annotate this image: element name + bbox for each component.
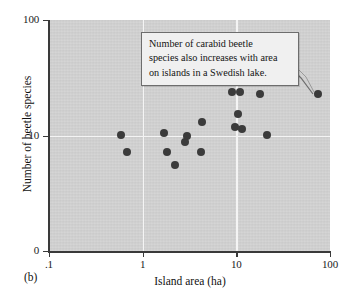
x-axis-tick [143,252,144,257]
panel-label: (b) [24,271,37,283]
y-axis-tick-label: 100 [5,13,39,25]
data-point [171,161,179,169]
data-point [314,90,322,98]
y-axis-title: Number of beetle species [21,44,33,224]
data-point [117,131,125,139]
x-axis-tick-label: 100 [310,258,350,270]
data-point [198,118,206,126]
data-point [236,88,244,96]
data-point [163,148,171,156]
data-point [228,88,236,96]
x-axis-tick-label: .1 [29,258,69,270]
x-axis-line [48,251,331,253]
callout-line-2: species also increases with area [149,51,292,65]
data-point [183,132,191,140]
y-axis-line [48,20,50,252]
data-point [263,131,271,139]
x-axis-title: Island area (ha) [120,275,260,287]
data-point [234,110,242,118]
x-axis-tick [236,252,237,257]
y-axis-tick [43,20,48,21]
y-axis-tick [43,136,48,137]
callout-box: Number of carabid beetle species also in… [141,32,299,86]
callout-line-1: Number of carabid beetle [149,37,292,51]
data-point [197,148,205,156]
data-point [181,138,189,146]
data-point [256,90,264,98]
x-axis-tick [330,252,331,257]
x-axis-tick-label: 10 [216,258,256,270]
data-point [238,125,246,133]
y-axis-tick [43,251,48,252]
x-axis-tick [49,252,50,257]
data-point [160,129,168,137]
figure-panel-b: .1110100010100 Island area (ha) Number o… [0,0,350,299]
callout-line-3: on islands in a Swedish lake. [149,66,292,80]
y-axis-tick-label: 0 [5,244,39,256]
x-axis-tick-label: 1 [123,258,163,270]
data-point [123,148,131,156]
